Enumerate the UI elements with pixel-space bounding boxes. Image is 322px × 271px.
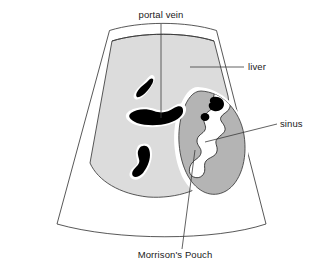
label-portal-vein: portal vein: [139, 9, 184, 20]
label-morrisons-pouch: Morrison's Pouch: [138, 249, 213, 260]
ultrasound-figure-svg: portal vein liver sinus Morrison's Pouch: [0, 0, 322, 271]
sinus-vessel-large: [209, 97, 224, 111]
sinus-vessel-small: [201, 113, 210, 121]
label-sinus: sinus: [280, 118, 303, 129]
label-liver: liver: [248, 61, 266, 72]
ultrasound-diagram: portal vein liver sinus Morrison's Pouch: [0, 0, 322, 271]
